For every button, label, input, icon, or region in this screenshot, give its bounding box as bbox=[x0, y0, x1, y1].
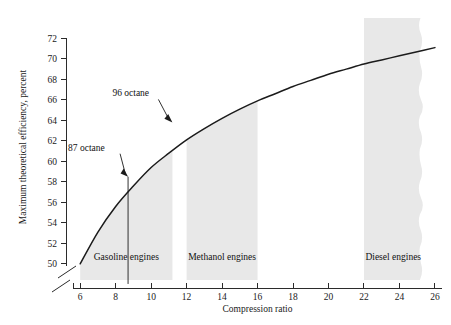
x-tick-label: 18 bbox=[288, 292, 298, 302]
y-axis-tick-labels: 505254565860626466687072 bbox=[48, 34, 58, 269]
x-tick-label: 24 bbox=[395, 292, 405, 302]
region-shading-group bbox=[80, 18, 426, 280]
x-tick-label: 10 bbox=[146, 292, 156, 302]
region-label-methanol: Methanol engines bbox=[188, 252, 256, 262]
x-tick-label: 12 bbox=[182, 292, 192, 302]
region-label-gasoline: Gasoline engines bbox=[94, 252, 159, 262]
y-axis-title: Maximum theoretical efficiency, percent bbox=[18, 69, 28, 224]
y-tick-label: 64 bbox=[48, 116, 58, 126]
y-axis-break-icon bbox=[52, 266, 76, 292]
x-tick-label: 22 bbox=[359, 292, 369, 302]
chart-canvas: 505254565860626466687072 681012141618202… bbox=[0, 0, 451, 325]
x-tick-label: 14 bbox=[217, 292, 227, 302]
octane-96-label: 96 octane bbox=[112, 88, 149, 98]
octane-96-leader-line bbox=[158, 99, 168, 118]
y-tick-label: 66 bbox=[48, 95, 58, 105]
y-tick-label: 70 bbox=[48, 54, 58, 64]
octane-87-arrowhead bbox=[121, 169, 129, 177]
efficiency-vs-compression-ratio-figure: 505254565860626466687072 681012141618202… bbox=[0, 0, 451, 325]
y-axis-tick-marks bbox=[61, 38, 66, 263]
y-tick-label: 52 bbox=[48, 239, 58, 249]
y-tick-label: 62 bbox=[48, 136, 58, 146]
y-tick-label: 60 bbox=[48, 157, 58, 167]
y-tick-label: 56 bbox=[48, 198, 58, 208]
annotation-96-octane: 96 octane bbox=[112, 88, 172, 122]
x-axis: 68101214161820222426 bbox=[73, 283, 442, 302]
region-methanol-engines bbox=[187, 18, 258, 280]
x-axis-tick-marks bbox=[73, 283, 435, 288]
y-axis: 505254565860626466687072 bbox=[48, 34, 77, 292]
y-tick-label: 58 bbox=[48, 177, 58, 187]
x-axis-title: Compression ratio bbox=[223, 304, 293, 314]
x-tick-label: 16 bbox=[253, 292, 263, 302]
y-tick-label: 72 bbox=[48, 34, 58, 44]
x-tick-label: 8 bbox=[113, 292, 118, 302]
y-tick-label: 50 bbox=[48, 259, 58, 269]
x-tick-label: 20 bbox=[324, 292, 334, 302]
x-tick-label: 6 bbox=[78, 292, 83, 302]
x-tick-label: 26 bbox=[430, 292, 440, 302]
y-tick-label: 54 bbox=[48, 218, 58, 228]
y-tick-label: 68 bbox=[48, 75, 58, 85]
region-label-diesel: Diesel engines bbox=[365, 252, 421, 262]
octane-87-label: 87 octane bbox=[68, 143, 105, 153]
octane-96-arrowhead bbox=[164, 114, 172, 122]
x-axis-tick-labels: 68101214161820222426 bbox=[78, 292, 440, 302]
